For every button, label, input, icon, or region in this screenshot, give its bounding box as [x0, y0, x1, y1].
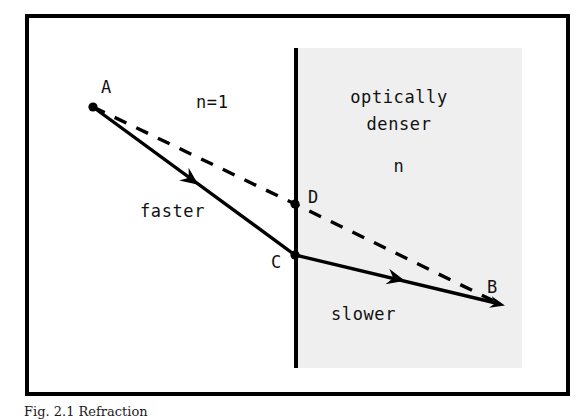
- denser-medium-label-line1: optically: [350, 87, 448, 107]
- refractive-index-left-label: n=1: [196, 92, 229, 112]
- point-dot-d: [290, 199, 299, 208]
- figure-caption: Fig. 2.1 Refraction: [24, 404, 576, 420]
- point-label-a: A: [101, 77, 111, 97]
- point-label-c: C: [271, 252, 281, 272]
- denser-medium-index-label: n: [394, 156, 405, 176]
- refraction-diagram: A D C B n=1 optically denser n faster sl…: [0, 0, 585, 420]
- point-label-b: B: [487, 277, 497, 297]
- denser-medium-label-line2: denser: [366, 114, 431, 134]
- point-dot-a: [88, 102, 97, 111]
- faster-speed-label: faster: [140, 201, 205, 221]
- point-label-d: D: [308, 187, 318, 207]
- slower-speed-label: slower: [331, 304, 396, 324]
- point-dot-c: [290, 250, 299, 259]
- figure-root: A D C B n=1 optically denser n faster sl…: [0, 0, 585, 420]
